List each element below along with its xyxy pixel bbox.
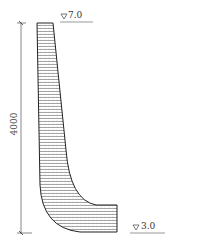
- wall-drawing: [0, 0, 211, 248]
- elevation-label-bottom: 3.0: [141, 221, 155, 231]
- elevation-label-top: 7.0: [68, 10, 82, 20]
- wall-section: [37, 23, 117, 232]
- dimension-label: 4000: [9, 109, 19, 139]
- dimension-line: [17, 21, 32, 235]
